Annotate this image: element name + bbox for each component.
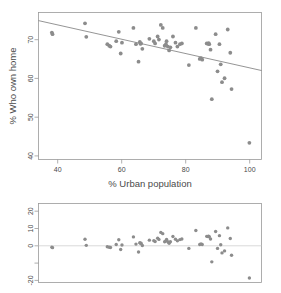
main-ytick-label-40: 40 xyxy=(27,152,34,160)
data-point xyxy=(209,237,212,240)
data-point xyxy=(139,42,143,46)
data-point xyxy=(219,62,223,66)
data-point xyxy=(140,47,144,51)
data-point xyxy=(210,260,213,263)
data-point xyxy=(165,39,169,43)
data-point xyxy=(174,41,178,45)
main-xtick-label-60: 60 xyxy=(118,166,126,173)
residual-plot-frame xyxy=(39,204,262,283)
data-point xyxy=(229,237,232,240)
data-point xyxy=(168,45,172,49)
main-plot-frame xyxy=(39,13,262,160)
data-point xyxy=(153,42,157,46)
main-ytick-label-70: 70 xyxy=(27,36,34,44)
data-point xyxy=(137,60,141,64)
resid-ytick-label-20: 20 xyxy=(27,207,34,215)
data-point xyxy=(51,32,55,36)
main-y-ticks xyxy=(35,40,39,156)
data-point xyxy=(187,63,191,67)
data-point xyxy=(115,243,118,246)
data-point xyxy=(153,240,156,243)
data-point xyxy=(171,35,175,39)
data-point xyxy=(226,28,230,32)
data-point xyxy=(223,249,226,252)
main-xtick-label-80: 80 xyxy=(182,166,190,173)
data-point xyxy=(228,51,232,55)
data-point xyxy=(137,250,140,253)
data-point xyxy=(119,248,122,251)
data-point xyxy=(180,42,184,46)
regression-figure: 40 50 60 70 % Who own home 40 60 80 100 … xyxy=(0,0,281,293)
data-point xyxy=(83,21,87,25)
data-point xyxy=(51,246,54,249)
data-point xyxy=(134,42,138,46)
main-data-points xyxy=(50,21,251,144)
data-point xyxy=(209,48,213,52)
data-point xyxy=(207,42,211,46)
data-point xyxy=(84,35,88,39)
data-point xyxy=(187,247,190,250)
data-point xyxy=(226,226,229,229)
data-point xyxy=(201,243,204,246)
data-point xyxy=(147,37,151,41)
data-point xyxy=(171,235,174,238)
data-point xyxy=(200,58,204,62)
main-x-ticks xyxy=(58,160,250,164)
residual-data-points xyxy=(50,226,251,279)
data-point xyxy=(141,244,144,247)
data-point xyxy=(214,32,218,36)
data-point xyxy=(218,42,222,46)
data-point xyxy=(180,237,183,240)
data-point xyxy=(157,238,160,241)
main-ytick-label-60: 60 xyxy=(27,74,34,82)
resid-ytick-label-0: 0 xyxy=(27,244,34,248)
data-point xyxy=(247,141,251,145)
data-point xyxy=(218,234,221,237)
main-xtick-label-100: 100 xyxy=(244,166,256,173)
data-point xyxy=(214,230,217,233)
data-point xyxy=(148,238,151,241)
data-point xyxy=(210,97,214,101)
data-point xyxy=(109,246,112,249)
data-point xyxy=(248,276,251,279)
data-point xyxy=(120,41,124,45)
data-point xyxy=(120,243,123,246)
data-point xyxy=(109,45,113,49)
data-point xyxy=(219,243,222,246)
main-ytick-label-50: 50 xyxy=(27,113,34,121)
data-point xyxy=(223,76,227,80)
data-point xyxy=(117,238,120,241)
main-y-axis-title: % Who own home xyxy=(7,47,18,124)
main-x-axis-title: % Urban population xyxy=(108,178,191,189)
data-point xyxy=(114,39,118,43)
data-point xyxy=(216,247,219,250)
data-point xyxy=(157,38,161,42)
residual-y-ticks xyxy=(35,211,39,280)
data-point xyxy=(83,238,86,241)
data-point xyxy=(194,229,197,232)
data-point xyxy=(216,69,220,73)
main-scatter-panel: 40 50 60 70 % Who own home 40 60 80 100 … xyxy=(7,13,262,190)
main-xtick-label-40: 40 xyxy=(54,166,62,173)
data-point xyxy=(119,52,123,56)
data-point xyxy=(132,235,135,238)
data-point xyxy=(117,30,121,34)
data-point xyxy=(132,26,136,30)
data-point xyxy=(169,240,172,243)
resid-ytick-label-neg20: -20 xyxy=(27,275,34,285)
data-point xyxy=(194,26,198,30)
resid-ytick-label-10: 10 xyxy=(27,225,34,233)
data-point xyxy=(134,242,137,245)
data-point xyxy=(220,80,224,84)
data-point xyxy=(85,244,88,247)
data-point xyxy=(230,87,234,91)
residual-panel: 20 10 0 -20 xyxy=(27,204,262,286)
data-point xyxy=(161,26,165,30)
data-point xyxy=(161,232,164,235)
data-point xyxy=(230,254,233,257)
